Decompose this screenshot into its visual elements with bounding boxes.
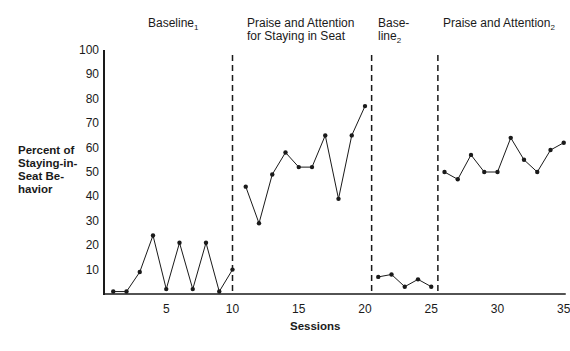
data-point [310, 165, 314, 169]
y-tick-label: 50 [86, 165, 100, 179]
data-point [323, 133, 327, 137]
data-point [562, 141, 566, 145]
data-point [469, 153, 473, 157]
data-point [429, 284, 433, 288]
data-point [177, 241, 181, 245]
data-point [270, 172, 274, 176]
data-point [124, 289, 128, 293]
y-tick-label: 100 [79, 43, 99, 57]
data-point [363, 104, 367, 108]
y-tick-label: 60 [86, 141, 100, 155]
data-point [403, 284, 407, 288]
data-point [217, 289, 221, 293]
data-point [164, 287, 168, 291]
x-tick-label: 10 [226, 302, 240, 316]
data-point [297, 165, 301, 169]
x-tick-label: 20 [358, 302, 372, 316]
plot-area: 1020304050607080901005101520253035 [0, 0, 570, 351]
data-point [389, 272, 393, 276]
data-point [456, 177, 460, 181]
y-tick-label: 30 [86, 214, 100, 228]
data-point [244, 184, 248, 188]
data-point [230, 267, 234, 271]
x-tick-label: 35 [557, 302, 570, 316]
data-point [151, 233, 155, 237]
data-point [442, 170, 446, 174]
x-tick-label: 15 [292, 302, 306, 316]
data-point [535, 170, 539, 174]
data-point [191, 287, 195, 291]
data-point [495, 170, 499, 174]
x-tick-label: 5 [163, 302, 170, 316]
data-point [350, 133, 354, 137]
y-tick-label: 70 [86, 116, 100, 130]
data-point [283, 150, 287, 154]
data-point [548, 148, 552, 152]
data-point [509, 136, 513, 140]
data-line [246, 106, 365, 223]
data-point [257, 221, 261, 225]
y-tick-label: 10 [86, 263, 100, 277]
data-point [482, 170, 486, 174]
data-point [138, 270, 142, 274]
y-tick-label: 40 [86, 189, 100, 203]
data-point [376, 275, 380, 279]
data-point [111, 289, 115, 293]
data-line [445, 138, 564, 179]
data-point [336, 197, 340, 201]
data-point [522, 158, 526, 162]
y-tick-label: 90 [86, 67, 100, 81]
data-point [204, 241, 208, 245]
x-tick-label: 30 [491, 302, 505, 316]
data-line [113, 235, 232, 291]
data-point [416, 277, 420, 281]
y-tick-label: 20 [86, 238, 100, 252]
y-tick-label: 80 [86, 92, 100, 106]
x-tick-label: 25 [425, 302, 439, 316]
